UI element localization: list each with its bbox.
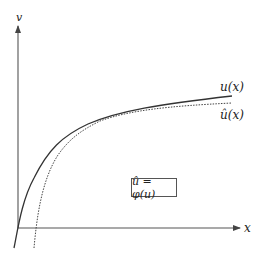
x-axis-label: x bbox=[244, 221, 251, 235]
relation-box: û = φ(u) bbox=[131, 178, 177, 197]
curve-u-label: u(x) bbox=[220, 80, 244, 94]
diagram-canvas: v x u(x) û(x) bbox=[0, 0, 262, 259]
y-axis-label: v bbox=[16, 11, 23, 24]
curve-u bbox=[14, 96, 232, 248]
curve-u-hat-label: û(x) bbox=[220, 108, 244, 122]
